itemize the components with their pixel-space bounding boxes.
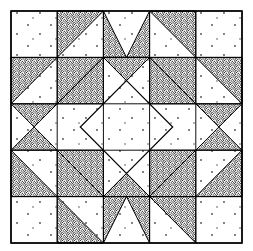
quilt-block-svg: Quilt Block Pattern Five-by-five patchwo… [0,0,253,251]
quilt-block-figure: Quilt Block Pattern Five-by-five patchwo… [0,0,253,251]
